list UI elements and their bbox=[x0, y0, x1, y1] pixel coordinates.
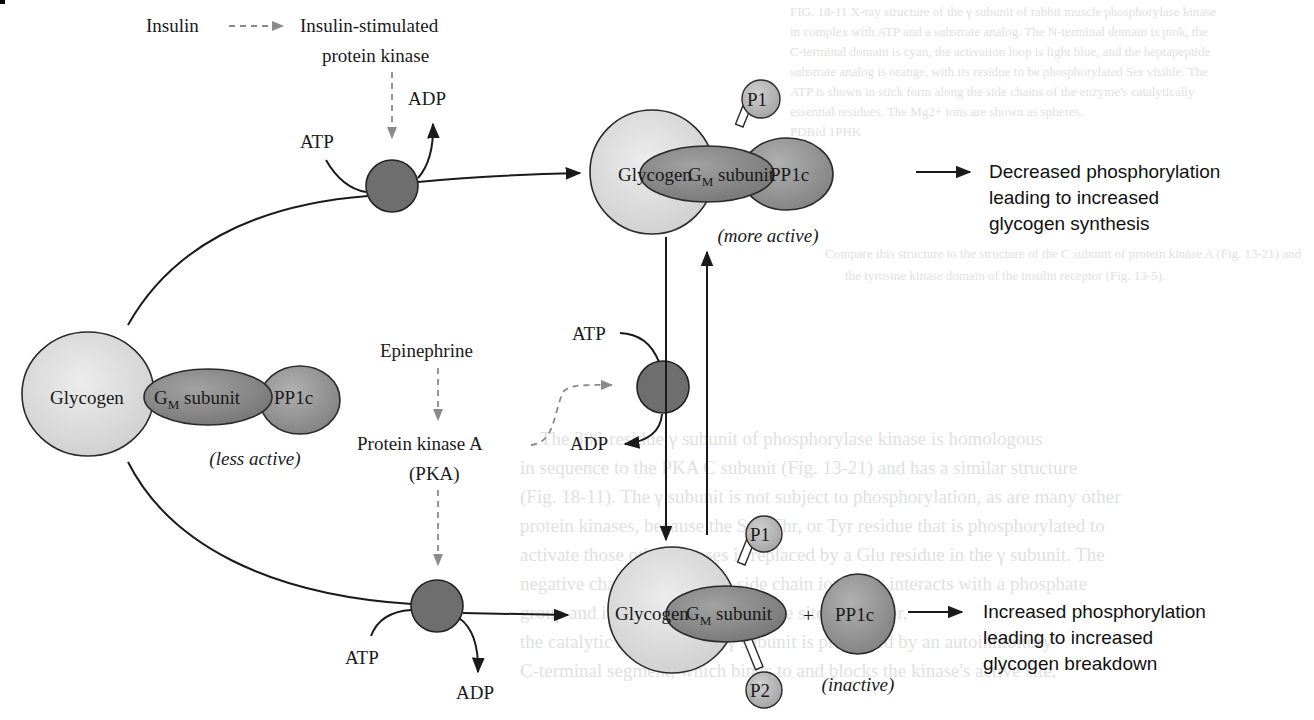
epinephrine-label: Epinephrine bbox=[380, 340, 473, 361]
middle-kinase-atp-label: ATP bbox=[572, 323, 606, 344]
insulin-kinase-label-line2: protein kinase bbox=[322, 45, 429, 66]
path-top-kinase-to-active-complex bbox=[418, 173, 580, 182]
svg-text:activate those other kinases i: activate those other kinases is replaced… bbox=[520, 544, 1105, 565]
top-pp1c-label: PP1c bbox=[770, 164, 809, 185]
top-outcome-text: Decreased phosphorylation leading to inc… bbox=[989, 161, 1220, 234]
bottom-p2-label: P2 bbox=[750, 680, 770, 701]
bottom-adp-curve bbox=[459, 618, 478, 672]
svg-text:PDBid 1PHK: PDBid 1PHK bbox=[790, 124, 862, 139]
svg-text:C-terminal segment, which bind: C-terminal segment, which binds to and b… bbox=[520, 660, 1056, 681]
bottom-state-label: (inactive) bbox=[822, 674, 895, 696]
bottom-glycogen-label: Glycogen bbox=[615, 603, 689, 624]
left-pp1c-label: PP1c bbox=[274, 387, 313, 408]
bottom-kinase-atp-label: ATP bbox=[345, 647, 379, 668]
left-state-label: (less active) bbox=[209, 448, 300, 470]
bottom-atp-curve bbox=[371, 610, 411, 636]
corner-mark bbox=[0, 0, 5, 4]
path-left-to-bottom bbox=[128, 462, 412, 604]
svg-text:(Fig. 18-11). The γ subunit is: (Fig. 18-11). The γ subunit is not subje… bbox=[520, 486, 1121, 508]
top-p1-label: P1 bbox=[747, 89, 767, 110]
svg-text:the catalytic activity of the: the catalytic activity of the γ subunit … bbox=[520, 631, 1053, 652]
bottom-kinase-adp-label: ADP bbox=[456, 682, 494, 703]
bottom-outcome-text: Increased phosphorylation leading to inc… bbox=[983, 601, 1206, 674]
svg-text:glycogen synthesis: glycogen synthesis bbox=[989, 213, 1150, 234]
svg-text:FIG. 18-11 X-ray structure of: FIG. 18-11 X-ray structure of the γ subu… bbox=[790, 4, 1216, 19]
plus-sign: + bbox=[803, 605, 814, 626]
left-glycogen-label: Glycogen bbox=[50, 387, 124, 408]
glycogen-regulation-diagram: FIG. 18-11 X-ray structure of the γ subu… bbox=[0, 0, 1314, 720]
insulin-kinase-label-line1: Insulin-stimulated bbox=[300, 15, 439, 36]
middle-kinase-circle bbox=[637, 361, 689, 413]
svg-text:protein kinases, because the S: protein kinases, because the Ser, Thr, o… bbox=[520, 515, 1105, 536]
svg-text:in complex with ATP and a subs: in complex with ATP and a substrate anal… bbox=[790, 24, 1208, 39]
bottom-kinase-circle bbox=[411, 580, 463, 632]
svg-text:Decreased phosphorylation: Decreased phosphorylation bbox=[989, 161, 1220, 182]
middle-atp-curve bbox=[620, 333, 659, 362]
svg-text:glycogen breakdown: glycogen breakdown bbox=[983, 653, 1157, 674]
background-caption-text: FIG. 18-11 X-ray structure of the γ subu… bbox=[790, 4, 1302, 283]
svg-text:leading to increased: leading to increased bbox=[983, 627, 1153, 648]
bottom-pp1c-label: PP1c bbox=[835, 604, 874, 625]
top-kinase-circle bbox=[366, 160, 418, 212]
svg-text:negative charge of the Glu's s: negative charge of the Glu's side chain … bbox=[520, 573, 1087, 594]
top-kinase-adp-label: ADP bbox=[408, 88, 446, 109]
top-glycogen-label: Glycogen bbox=[618, 164, 692, 185]
svg-text:Increased phosphorylation: Increased phosphorylation bbox=[983, 601, 1206, 622]
middle-kinase-adp-label: ADP bbox=[570, 433, 608, 454]
svg-text:the tyrosine kinase domain of: the tyrosine kinase domain of the insuli… bbox=[845, 268, 1165, 283]
top-kinase-atp-label: ATP bbox=[300, 131, 334, 152]
bottom-p1-label: P1 bbox=[750, 524, 770, 545]
svg-text:C-terminal domain is cyan, the: C-terminal domain is cyan, the activatio… bbox=[790, 44, 1210, 59]
top-adp-curve bbox=[418, 124, 433, 178]
left-complex: Glycogen GM subunit PP1c (less active) bbox=[22, 332, 340, 470]
svg-text:substrate analog is orange, wi: substrate analog is orange, with its res… bbox=[790, 64, 1208, 79]
svg-text:The 386-residue γ subunit of p: The 386-residue γ subunit of phosphoryla… bbox=[540, 428, 1042, 449]
svg-text:Compare this structure to the: Compare this structure to the structure … bbox=[825, 246, 1302, 261]
top-atp-curve bbox=[326, 160, 366, 192]
svg-text:essential residues. The Mg2+ i: essential residues. The Mg2+ ions are sh… bbox=[790, 104, 1083, 119]
pka-label-line1: Protein kinase A bbox=[357, 433, 483, 454]
svg-text:ATP is shown in stick form alo: ATP is shown in stick form along the sid… bbox=[790, 84, 1195, 99]
pka-label-line2: (PKA) bbox=[409, 463, 460, 485]
svg-text:leading to increased: leading to increased bbox=[989, 187, 1159, 208]
top-state-label: (more active) bbox=[717, 225, 818, 247]
svg-text:in sequence to the PKA C subun: in sequence to the PKA C subunit (Fig. 1… bbox=[520, 457, 1077, 479]
insulin-label: Insulin bbox=[146, 15, 199, 36]
path-left-to-top bbox=[128, 196, 368, 325]
